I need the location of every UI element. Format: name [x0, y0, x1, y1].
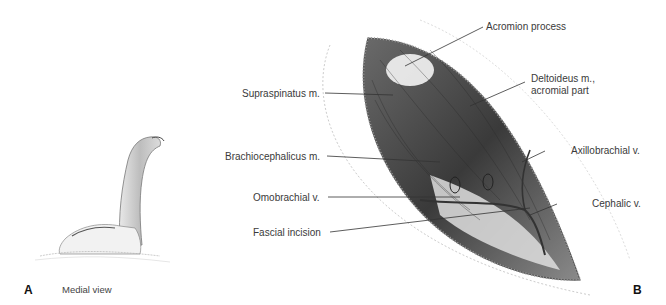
label-deltoideus-line1: Deltoideus m.,: [531, 73, 595, 84]
label-cephalic-vein: Cephalic v.: [592, 198, 641, 209]
panel-b-letter: B: [633, 283, 642, 297]
label-deltoideus-line2: acromial part: [531, 85, 589, 96]
label-acromion-process: Acromion process: [486, 21, 566, 32]
label-omobrachial-vein: Omobrachial v.: [253, 192, 320, 203]
label-fascial-incision: Fascial incision: [253, 227, 321, 238]
horse-sketch: [35, 137, 170, 262]
label-brachiocephalicus: Brachiocephalicus m.: [225, 151, 320, 162]
panel-a-letter: A: [24, 283, 33, 297]
label-axillobrachial-vein: Axillobrachial v.: [571, 145, 640, 156]
panel-a-caption: Medial view: [62, 284, 112, 295]
illustration-canvas: [0, 0, 666, 305]
label-supraspinatus: Supraspinatus m.: [242, 88, 320, 99]
